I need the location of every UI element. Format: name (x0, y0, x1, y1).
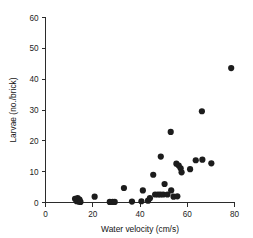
data-point (121, 185, 127, 191)
plot-canvas: 0102030405060 020406080 Water velocity (… (0, 0, 253, 238)
data-point (77, 199, 83, 205)
data-point (161, 181, 167, 187)
data-point (168, 129, 174, 135)
data-point (158, 153, 164, 159)
y-tick-label: 40 (29, 75, 39, 84)
data-point (187, 166, 193, 172)
x-tick-label: 80 (230, 210, 240, 219)
data-point (168, 187, 174, 193)
data-point (208, 160, 214, 166)
y-axis-ticks: 0102030405060 (29, 14, 45, 208)
scatter-chart-figure: 0102030405060 020406080 Water velocity (… (0, 0, 253, 238)
y-tick-label: 60 (29, 14, 39, 23)
data-point (228, 65, 234, 71)
y-axis-title: Larvae (no./brick) (8, 77, 18, 142)
y-tick-label: 30 (29, 106, 39, 115)
data-point (178, 169, 184, 175)
x-tick-label: 60 (183, 210, 193, 219)
data-point (140, 187, 146, 193)
data-point (193, 157, 199, 163)
x-axis-title: Water velocity (cm/s) (101, 224, 179, 234)
y-tick-label: 0 (34, 199, 39, 208)
data-point (150, 172, 156, 178)
y-tick-label: 50 (29, 44, 39, 53)
axes-group (46, 18, 235, 203)
data-point (92, 194, 98, 200)
data-point (129, 198, 135, 204)
data-point (199, 108, 205, 114)
data-point (138, 198, 144, 204)
x-tick-label: 0 (43, 210, 48, 219)
y-tick-label: 10 (29, 168, 39, 177)
data-point (112, 199, 118, 205)
x-tick-label: 40 (135, 210, 145, 219)
data-point (174, 193, 180, 199)
x-axis-ticks: 020406080 (43, 203, 239, 219)
data-point-layer (72, 65, 234, 205)
x-tick-label: 20 (88, 210, 98, 219)
data-point (199, 157, 205, 163)
data-point (147, 195, 153, 201)
y-tick-label: 20 (29, 137, 39, 146)
